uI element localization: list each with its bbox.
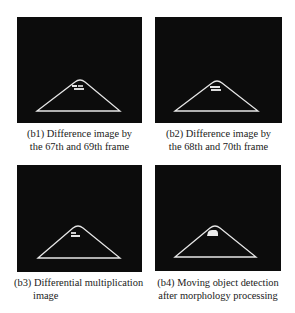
- caption-b3-line1: (b3) Differential multiplication: [14, 276, 149, 289]
- triangle-road-outline-icon: [17, 165, 142, 272]
- detection-image-b4: [155, 165, 281, 271]
- triangle-road-outline-icon: [155, 17, 282, 123]
- caption-b4-line1: (b4) Moving object detection: [150, 276, 286, 289]
- triangle-road-outline-icon: [155, 165, 281, 271]
- difference-image-b2: [155, 17, 282, 123]
- caption-b1-line1: (b1) Difference image by: [17, 127, 142, 140]
- caption-b3: (b3) Differential multiplication image: [14, 276, 149, 302]
- caption-b2-line1: (b2) Difference image by: [155, 127, 282, 140]
- caption-b2: (b2) Difference image by the 68th and 70…: [155, 127, 282, 153]
- caption-b4: (b4) Moving object detection after morph…: [150, 276, 286, 302]
- caption-b1-line2: the 67th and 69th frame: [17, 140, 142, 153]
- caption-b4-line2: after morphology processing: [150, 289, 286, 302]
- caption-b3-line2: image: [14, 289, 149, 302]
- caption-b2-line2: the 68th and 70th frame: [155, 140, 282, 153]
- triangle-road-outline-icon: [17, 17, 142, 123]
- caption-b1: (b1) Difference image by the 67th and 69…: [17, 127, 142, 153]
- multiplication-image-b3: [17, 165, 142, 272]
- difference-image-b1: [17, 17, 142, 123]
